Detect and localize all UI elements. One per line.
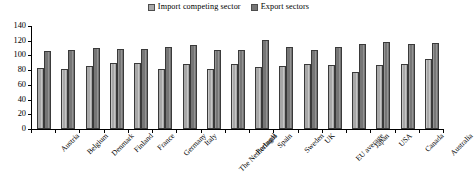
bar-export-sectors (383, 42, 390, 129)
chart-legend: Import competing sector Export sectors (0, 3, 457, 11)
bar-import-competing-sector (37, 68, 44, 129)
bar-export-sectors (68, 50, 75, 129)
bar-group (323, 26, 347, 129)
bar-import-competing-sector (110, 63, 117, 129)
bar-import-competing-sector (401, 64, 408, 129)
bar-import-competing-sector (158, 69, 165, 129)
bar-import-competing-sector (352, 72, 359, 129)
bar-import-competing-sector (304, 64, 311, 129)
bar-group (226, 26, 250, 129)
bar-group (105, 26, 129, 129)
legend-label-import: Import competing sector (158, 3, 241, 11)
bar-group (420, 26, 444, 129)
bar-export-sectors (44, 51, 51, 129)
bar-groups (32, 26, 444, 129)
legend-swatch-icon-export (251, 4, 258, 11)
bar-import-competing-sector (328, 65, 335, 129)
y-axis: 020406080100120140 (0, 20, 31, 135)
bar-import-competing-sector (425, 59, 432, 129)
legend-item-import-competing-sector: Import competing sector (148, 3, 241, 11)
x-axis-tick-label: France (156, 132, 176, 152)
x-axis-tick-label: Germany (183, 132, 208, 157)
bar-export-sectors (214, 50, 221, 129)
legend-label-export: Export sectors (261, 3, 309, 11)
x-axis-labels: AustriaBelgiumDenmarkFinlandFranceGerman… (31, 132, 444, 194)
bar-group (202, 26, 226, 129)
bar-import-competing-sector (134, 63, 141, 129)
bar-export-sectors (408, 44, 415, 129)
bar-export-sectors (262, 40, 269, 129)
bar-export-sectors (190, 45, 197, 129)
bar-import-competing-sector (279, 66, 286, 129)
bar-group (250, 26, 274, 129)
bar-import-competing-sector (207, 69, 214, 129)
legend-swatch-icon-import (148, 4, 155, 11)
x-axis-tick-label: Belgium (85, 132, 109, 156)
y-axis-tick-label: 100 (13, 51, 26, 59)
x-axis-tick-label: Canada (424, 132, 445, 153)
bar-group (299, 26, 323, 129)
bar-export-sectors (335, 47, 342, 129)
bar-group (177, 26, 201, 129)
bar-import-competing-sector (86, 66, 93, 129)
bar-group (396, 26, 420, 129)
y-axis-tick-label: 140 (13, 22, 26, 30)
bar-export-sectors (238, 50, 245, 129)
x-axis-tick-label: UK (323, 132, 336, 145)
bar-import-competing-sector (231, 64, 238, 129)
bar-import-competing-sector (376, 65, 383, 129)
x-axis-tick-label: Austria (60, 132, 81, 153)
bar-export-sectors (93, 48, 100, 129)
bar-import-competing-sector (255, 67, 262, 129)
bar-import-competing-sector (183, 64, 190, 129)
y-axis-tick-label: 60 (18, 81, 26, 89)
y-axis-tick-label: 120 (13, 37, 26, 45)
y-axis-tick-label: 80 (18, 66, 26, 74)
bar-group (56, 26, 80, 129)
bar-group (80, 26, 104, 129)
x-axis-tick-label: Denmark (110, 132, 135, 157)
bar-export-sectors (165, 47, 172, 129)
x-axis-tick-label: Finland (133, 132, 155, 154)
plot-area (31, 26, 444, 130)
bar-group (32, 26, 56, 129)
x-axis-tick-label: Australia (449, 132, 474, 157)
bar-import-competing-sector (61, 69, 68, 129)
bar-export-sectors (286, 47, 293, 129)
x-axis-tick-label: Spain (276, 132, 294, 150)
bar-group (347, 26, 371, 129)
y-axis-tick-label: 20 (18, 110, 26, 118)
bar-export-sectors (432, 43, 439, 129)
bar-group (153, 26, 177, 129)
bar-export-sectors (117, 49, 124, 129)
y-axis-tick-label: 0 (22, 125, 26, 133)
bar-export-sectors (311, 50, 318, 129)
bar-group (274, 26, 298, 129)
x-axis-tick-label: USA (397, 132, 413, 148)
bar-group (371, 26, 395, 129)
bar-export-sectors (141, 49, 148, 129)
legend-item-export-sectors: Export sectors (251, 3, 309, 11)
x-axis-tick-label: Sweden (303, 132, 325, 154)
bar-group (129, 26, 153, 129)
bar-export-sectors (359, 44, 366, 129)
y-axis-tick-label: 40 (18, 95, 26, 103)
